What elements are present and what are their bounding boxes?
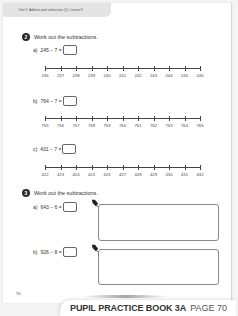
expression: 926 − 8 = xyxy=(40,249,61,255)
number-line-label: 755 xyxy=(42,123,49,128)
number-line-label: 765 xyxy=(197,123,204,128)
working-box-3b[interactable] xyxy=(98,249,219,285)
number-line-label: 243 xyxy=(150,73,157,78)
number-line-label: 241 xyxy=(119,73,126,78)
number-line-label: 245 xyxy=(181,73,188,78)
number-line-tick xyxy=(123,66,124,71)
number-line-tick xyxy=(107,165,108,170)
number-line-tick xyxy=(169,66,170,71)
unit-header-text: Unit 2: Addition and subtraction (2), Le… xyxy=(19,8,83,12)
number-line-label: 758 xyxy=(88,123,95,128)
number-line-label: 424 xyxy=(73,172,80,177)
number-line-tick xyxy=(107,66,108,71)
number-line-label: 759 xyxy=(104,123,111,128)
number-line-label: 246 xyxy=(197,73,204,78)
number-line-label: 422 xyxy=(42,172,49,177)
expression: 643 − 6 = xyxy=(40,204,61,210)
question-3-title: Work out the subtractions. xyxy=(34,190,98,196)
answer-box-2a[interactable] xyxy=(63,45,77,55)
number-line-label: 760 xyxy=(119,123,126,128)
number-line-label: 427 xyxy=(119,172,126,177)
answer-box-3b[interactable] xyxy=(63,247,77,257)
number-line-label: 757 xyxy=(73,123,80,128)
number-line-tick xyxy=(123,116,124,121)
workbook-page: Unit 2: Addition and subtraction (2), Le… xyxy=(3,3,232,303)
question-3b: b) 926 − 8 = xyxy=(33,247,77,257)
part-label: b) xyxy=(33,98,37,104)
expression: 245 − 7 = xyxy=(40,47,61,53)
number-line-label: 431 xyxy=(181,172,188,177)
number-line-tick xyxy=(185,116,186,121)
number-line-label: 428 xyxy=(135,172,142,177)
number-line-tick xyxy=(76,165,77,170)
number-line-label: 761 xyxy=(135,123,142,128)
number-line-label: 764 xyxy=(181,123,188,128)
number-line-tick xyxy=(185,165,186,170)
number-line-tick xyxy=(45,116,46,121)
question-2-title: Work out the subtractions. xyxy=(34,34,98,40)
number-line-label: 423 xyxy=(57,172,64,177)
number-line-label: 426 xyxy=(104,172,111,177)
answer-box-3a[interactable] xyxy=(63,202,77,212)
answer-box-2b[interactable] xyxy=(63,96,77,106)
number-line-tick xyxy=(169,116,170,121)
number-line-tick xyxy=(107,116,108,121)
number-line-label: 238 xyxy=(73,73,80,78)
number-line-tick xyxy=(76,66,77,71)
number-line-label: 242 xyxy=(135,73,142,78)
number-line-tick xyxy=(92,165,93,170)
part-label: c) xyxy=(33,146,37,152)
number-line-label: 756 xyxy=(57,123,64,128)
number-line-label: 236 xyxy=(42,73,49,78)
number-line-tick xyxy=(169,165,170,170)
number-line-tick xyxy=(123,165,124,170)
page-number: 70 xyxy=(16,291,20,296)
number-line-label: 237 xyxy=(57,73,64,78)
expression: 431 − 7 = xyxy=(40,146,61,152)
part-label: a) xyxy=(33,204,37,210)
question-2-badge: 2 xyxy=(22,33,30,41)
number-line-tick xyxy=(200,66,201,71)
number-line-label: 763 xyxy=(166,123,173,128)
question-2a: a) 245 − 7 = xyxy=(33,45,77,55)
number-line-label: 432 xyxy=(197,172,204,177)
number-line-label: 239 xyxy=(88,73,95,78)
book-footer-banner: PUPIL PRACTICE BOOK 3A PAGE 70 xyxy=(60,300,236,316)
number-line-tick xyxy=(92,116,93,121)
number-line-tick xyxy=(200,116,201,121)
number-line-tick xyxy=(61,66,62,71)
number-line-2c: 422423424425426427428429430431432 xyxy=(45,164,200,178)
book-title: PUPIL PRACTICE BOOK 3A xyxy=(70,303,186,313)
question-2b: b) 764 − 7 = xyxy=(33,96,77,106)
expression: 764 − 7 = xyxy=(40,98,61,104)
part-label: b) xyxy=(33,249,37,255)
unit-header-band: Unit 2: Addition and subtraction (2), Le… xyxy=(3,3,111,17)
number-line-label: 430 xyxy=(166,172,173,177)
question-2c: c) 431 − 7 = xyxy=(33,144,76,154)
working-box-3a[interactable] xyxy=(98,204,219,241)
answer-box-2c[interactable] xyxy=(62,144,76,154)
number-line-tick xyxy=(185,66,186,71)
question-3-badge: 3 xyxy=(22,189,30,197)
number-line-label: 425 xyxy=(88,172,95,177)
question-3a: a) 643 − 6 = xyxy=(33,202,77,212)
number-line-tick xyxy=(154,165,155,170)
number-line-tick xyxy=(92,66,93,71)
number-line-tick xyxy=(61,165,62,170)
number-line-label: 429 xyxy=(150,172,157,177)
part-label: a) xyxy=(33,47,37,53)
number-line-label: 244 xyxy=(166,73,173,78)
number-line-label: 240 xyxy=(104,73,111,78)
number-line-tick xyxy=(154,66,155,71)
number-line-tick xyxy=(138,116,139,121)
number-line-tick xyxy=(45,165,46,170)
number-line-tick xyxy=(138,66,139,71)
number-line-2a: 236237238239240241242243244245246 xyxy=(45,65,200,79)
number-line-label: 762 xyxy=(150,123,157,128)
number-line-tick xyxy=(154,116,155,121)
number-line-tick xyxy=(200,165,201,170)
number-line-tick xyxy=(138,165,139,170)
number-line-tick xyxy=(76,116,77,121)
number-line-tick xyxy=(61,116,62,121)
page-curl-shadow xyxy=(80,295,170,298)
